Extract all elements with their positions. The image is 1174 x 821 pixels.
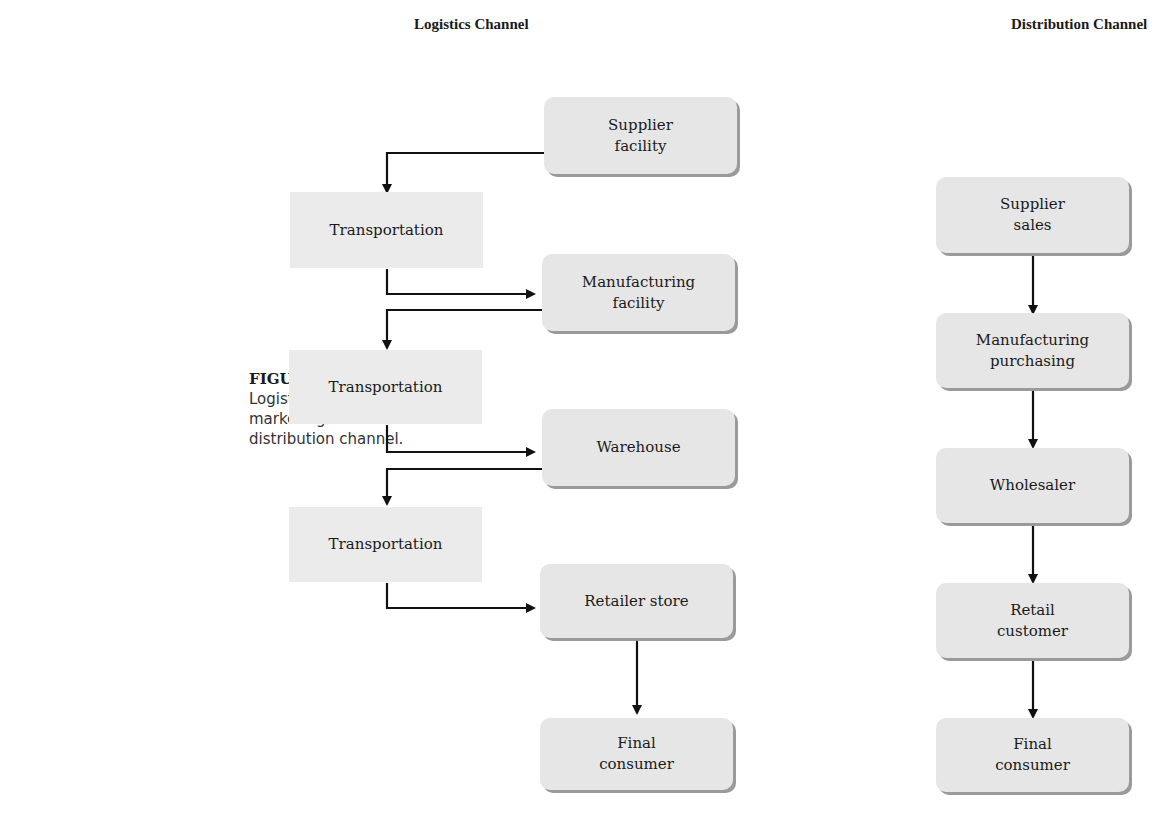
node-transportation-1: Transportation — [290, 192, 483, 268]
node-transportation-2: Transportation — [289, 350, 482, 424]
node-supplier-facility: Supplierfacility — [544, 97, 737, 174]
node-transportation-3: Transportation — [289, 507, 482, 582]
node-final-consumer-logistics: Finalconsumer — [540, 718, 733, 790]
node-wholesaler: Wholesaler — [936, 448, 1129, 523]
node-retailer-store: Retailer store — [540, 564, 733, 638]
node-retail-customer: Retailcustomer — [936, 583, 1129, 658]
node-supplier-sales: Suppliersales — [936, 177, 1129, 253]
node-manufacturing-purchasing: Manufacturingpurchasing — [936, 313, 1129, 388]
node-warehouse: Warehouse — [542, 409, 735, 486]
node-final-consumer-distribution: Finalconsumer — [936, 718, 1129, 792]
node-manufacturing-facility: Manufacturingfacility — [542, 254, 735, 331]
